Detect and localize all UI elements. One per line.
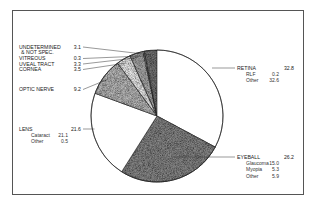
subvalue-retina-other: 32.6 (269, 77, 279, 83)
label-undetermined-not-spec-line2: & NOT SPEC. (21, 49, 54, 55)
value-lens: 21.6 (71, 126, 81, 132)
value-vitreous: 0.3 (74, 55, 81, 61)
label-eyeball: EYEBALL (237, 154, 260, 160)
value-retina: 32.8 (284, 65, 294, 71)
subvalue-eyeball-other: 5.9 (272, 173, 279, 179)
value-eyeball: 26.2 (284, 154, 294, 160)
label-uveal-tract: UVEAL TRACT (19, 61, 55, 67)
sublabel-lens-other: Other (31, 138, 44, 144)
sublabel-eyeball-myopia: Myopia (246, 166, 262, 172)
value-optic-nerve: 9.2 (74, 86, 81, 92)
label-vitreous: VITREOUS (19, 55, 46, 61)
pie-chart: RETINA32.8RLF0.2Other32.6EYEBALL26.2Glau… (0, 0, 311, 203)
sublabel-retina-other: Other (246, 77, 259, 83)
label-retina: RETINA (237, 65, 257, 71)
label-optic-nerve: OPTIC NERVE (19, 86, 55, 92)
value-uveal-tract: 3.3 (74, 61, 81, 67)
sublabel-eyeball-glaucoma: Glaucoma (246, 160, 269, 166)
subvalue-retina-rlf: 0.2 (272, 71, 279, 77)
subvalue-eyeball-glaucoma: 15.0 (269, 160, 279, 166)
sublabel-retina-rlf: RLF (246, 71, 255, 77)
leader-line-undetermined-not-spec (83, 47, 151, 55)
value-cornea: 3.5 (74, 66, 81, 72)
value-undetermined-not-spec: 3.1 (74, 44, 81, 50)
subvalue-lens-other: 0.5 (61, 138, 68, 144)
subvalue-eyeball-myopia: 5.3 (272, 166, 279, 172)
sublabel-eyeball-other: Other (246, 173, 259, 179)
label-cornea: CORNEA (19, 66, 42, 72)
